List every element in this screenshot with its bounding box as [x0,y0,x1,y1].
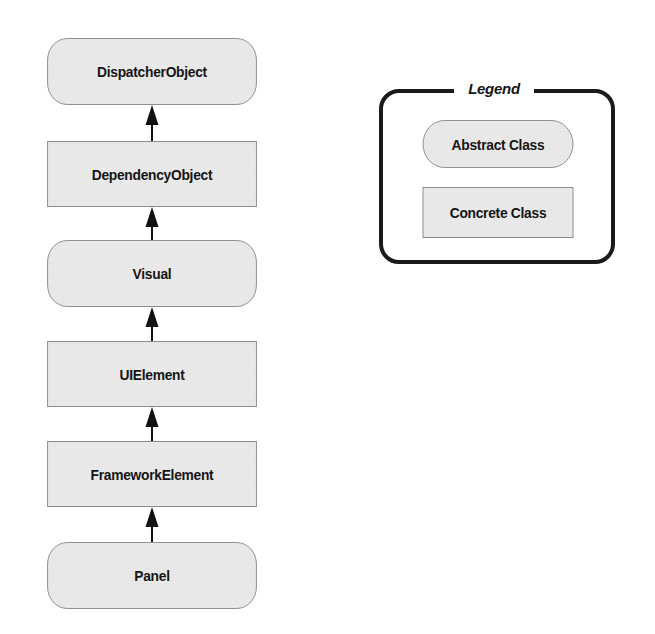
legend-item-label: Abstract Class [452,136,545,153]
node-visual: Visual [47,240,257,307]
node-label: UIElement [119,366,184,383]
node-label: Visual [133,265,172,282]
node-label: DispatcherObject [97,63,207,80]
node-label: FrameworkElement [91,466,214,483]
inheritance-arrow-icon [144,105,160,141]
legend-item-concrete-class: Concrete Class [423,187,574,238]
node-frameworkelement: FrameworkElement [47,441,257,507]
legend-title: Legend [454,77,534,99]
node-dispatcherobject: DispatcherObject [47,38,257,105]
inheritance-arrow-icon [144,407,160,441]
node-label: DependencyObject [92,166,213,183]
node-dependencyobject: DependencyObject [47,141,257,207]
legend-item-label: Concrete Class [450,204,547,221]
inheritance-arrow-icon [144,207,160,240]
legend-item-abstract-class: Abstract Class [423,120,574,168]
inheritance-arrow-icon [144,507,160,542]
node-panel: Panel [47,542,257,609]
inheritance-arrow-icon [144,307,160,341]
node-label: Panel [134,567,169,584]
node-uielement: UIElement [47,341,257,407]
